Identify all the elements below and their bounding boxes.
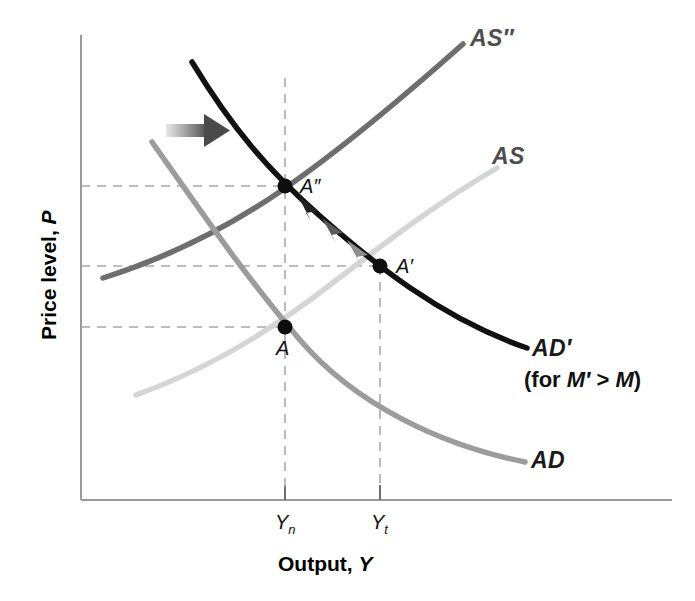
y-axis-title-text: Price level,	[37, 224, 60, 340]
curve-as-double-prime	[103, 44, 463, 278]
point-marker-a-double-prime	[278, 179, 293, 194]
point-label-a: A	[276, 338, 289, 358]
x-axis-title-text: Output,	[278, 552, 358, 575]
as-ad-diagram: AS″ AS AD′ AD (for M′ > M) A″ A′ A Yn Yt…	[0, 0, 695, 601]
point-marker-a	[278, 320, 293, 335]
ad-prime-money-note: (for M′ > M)	[524, 369, 641, 391]
curve-label-ad-prime: AD′	[532, 337, 572, 360]
point-marker-a-prime	[373, 259, 388, 274]
curve-label-ad: AD	[531, 449, 565, 472]
note-close-paren: )	[634, 367, 641, 392]
curve-label-as: AS	[492, 145, 525, 168]
point-label-a-prime: A′	[396, 256, 413, 276]
rightward-shift-arrow-icon	[166, 114, 230, 147]
x-axis-title-symbol: Y	[358, 552, 372, 575]
note-gt: >	[590, 367, 615, 392]
y-axis-title-symbol: P	[37, 210, 60, 224]
curve-ad	[152, 142, 525, 462]
curve-ad-prime	[192, 62, 527, 348]
point-label-a-double-prime: A″	[300, 176, 320, 196]
note-open-paren: (for	[524, 367, 567, 392]
note-m-prime: M′	[567, 367, 591, 392]
curve-label-as-double-prime: AS″	[470, 27, 514, 50]
x-tick-label-yn-sub: n	[288, 522, 295, 537]
x-tick-label-yn: Yn	[275, 512, 296, 536]
x-tick-label-yt: Yt	[371, 512, 388, 536]
y-axis-title: Price level, P	[38, 210, 59, 340]
x-tick-label-yn-main: Y	[275, 511, 288, 533]
note-m: M	[615, 367, 633, 392]
x-tick-label-yt-main: Y	[371, 511, 384, 533]
plot-canvas	[0, 0, 695, 601]
x-axis-title: Output, Y	[278, 553, 373, 574]
x-tick-label-yt-sub: t	[384, 522, 388, 537]
